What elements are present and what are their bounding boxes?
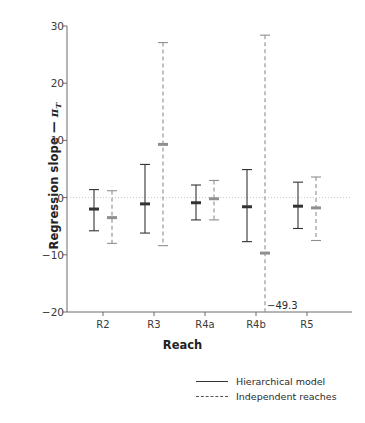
y-axis-tick-labels: 3020100−10−20 xyxy=(38,0,64,423)
x-axis-tick-label-r2: R2 xyxy=(96,319,109,330)
x-axis-tick-label-r4b: R4b xyxy=(246,319,266,330)
x-axis-tick-label-r3: R3 xyxy=(147,319,160,330)
figure-canvas: Regression slope — πT Reach 3020100−10−2… xyxy=(0,0,365,423)
legend-item-independent[interactable]: Independent reaches xyxy=(196,389,337,404)
x-axis-tick-labels: R2R3R4aR4bR5 xyxy=(0,313,365,337)
clipped-value-annotation: −49.3 xyxy=(267,300,298,311)
x-axis-tick-label-r4a: R4a xyxy=(195,319,214,330)
legend: Hierarchical model Independent reaches xyxy=(196,374,337,404)
y-axis-tick-label: 0 xyxy=(38,192,64,204)
legend-label-independent: Independent reaches xyxy=(236,391,337,402)
legend-label-hierarchical: Hierarchical model xyxy=(236,376,325,387)
y-axis-tick-label: 10 xyxy=(38,134,64,146)
x-axis-tick-label-r5: R5 xyxy=(300,319,313,330)
legend-key-dashed-line-icon xyxy=(196,392,228,402)
legend-key-solid-line-icon xyxy=(196,377,228,387)
legend-item-hierarchical[interactable]: Hierarchical model xyxy=(196,374,337,389)
y-axis-tick-label: 30 xyxy=(38,20,64,32)
y-axis-tick-label: −10 xyxy=(38,249,64,261)
y-axis-tick-label: 20 xyxy=(38,77,64,89)
